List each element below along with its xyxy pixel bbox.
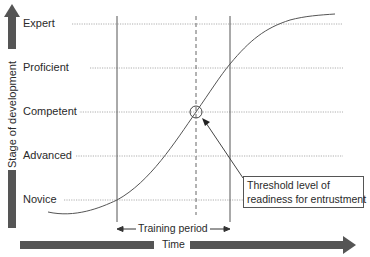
level-label-expert: Expert bbox=[23, 17, 57, 30]
x-axis-bar-left bbox=[20, 241, 154, 249]
level-label-proficient: Proficient bbox=[23, 61, 71, 74]
threshold-callout: Threshold level of readiness for entrust… bbox=[243, 176, 364, 208]
x-axis-arrow bbox=[20, 236, 356, 254]
arrow-left-icon bbox=[117, 227, 123, 232]
level-label-advanced: Advanced bbox=[23, 149, 74, 162]
training-period-label: Training period bbox=[136, 222, 210, 235]
level-label-competent: Competent bbox=[23, 105, 79, 118]
callout-pointer-line bbox=[206, 123, 243, 178]
callout-line-1: Threshold level of bbox=[247, 178, 360, 192]
callout-arrowhead-icon bbox=[202, 118, 210, 126]
level-gridlines bbox=[64, 24, 343, 200]
level-label-novice: Novice bbox=[23, 193, 59, 206]
x-axis-title: Time bbox=[162, 238, 185, 251]
arrow-up-icon bbox=[4, 4, 20, 17]
development-curve-diagram bbox=[0, 0, 370, 257]
y-axis-title: Stage of development bbox=[6, 78, 18, 168]
arrow-right-icon bbox=[224, 227, 230, 232]
callout-line-2: readiness for entrustment bbox=[247, 192, 360, 206]
arrow-right-large-icon bbox=[343, 236, 356, 254]
y-axis-bar-lower bbox=[8, 170, 16, 228]
